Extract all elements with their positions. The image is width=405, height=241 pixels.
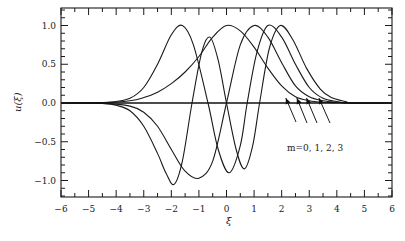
y-tick-labels: −1.0−0.50.00.51.0 — [34, 21, 56, 186]
x-tick-label: 2 — [279, 204, 285, 214]
x-tick-label: 0 — [224, 204, 230, 214]
y-tick-label: −1.0 — [34, 176, 56, 186]
x-tick-label: −6 — [54, 204, 68, 214]
y-tick-label: 0.5 — [42, 59, 57, 69]
x-tick-label: −3 — [137, 204, 151, 214]
y-axis-label: u(ξ) — [12, 92, 23, 112]
x-tick-label: 3 — [306, 204, 312, 214]
x-tick-label: 6 — [389, 204, 395, 214]
x-tick-label: −1 — [192, 204, 205, 214]
y-tick-label: 0.0 — [42, 98, 57, 108]
chart: −6−5−4−3−2−10123456 −1.0−0.50.00.51.0 m=… — [0, 0, 405, 241]
series-line-m0 — [61, 25, 392, 103]
series-line-m3 — [61, 25, 392, 184]
x-axis-label: ξ — [226, 215, 232, 226]
x-tick-label: 5 — [362, 204, 368, 214]
y-tick-label: −0.5 — [34, 137, 56, 147]
plot-curves — [61, 25, 392, 185]
x-tick-label: −5 — [82, 204, 96, 214]
y-tick-label: 1.0 — [42, 21, 57, 31]
x-tick-label: −2 — [165, 204, 178, 214]
annotation-label: m=0, 1, 2, 3 — [287, 143, 343, 153]
x-tick-label: −4 — [110, 204, 124, 214]
x-tick-label: 1 — [251, 204, 257, 214]
x-tick-label: 4 — [334, 204, 340, 214]
x-tick-labels: −6−5−4−3−2−10123456 — [54, 204, 395, 214]
